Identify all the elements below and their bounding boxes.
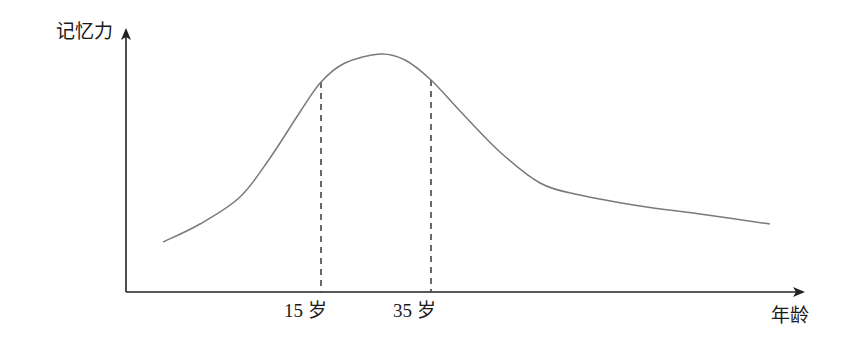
y-axis-label: 记忆力 — [56, 22, 113, 41]
memory-age-chart — [0, 0, 853, 342]
x-tick-label-15: 15 岁 — [284, 301, 327, 320]
x-axis-label: 年龄 — [771, 306, 809, 325]
memory-curve — [163, 54, 770, 242]
x-tick-label-35: 35 岁 — [393, 301, 436, 320]
